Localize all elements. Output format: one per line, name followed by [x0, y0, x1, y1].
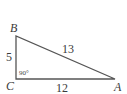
- right-angle-label: 90°: [19, 69, 29, 77]
- vertex-label-a: A: [113, 80, 122, 94]
- side-label-ab: 13: [62, 42, 74, 56]
- side-label-ca: 12: [56, 81, 68, 94]
- vertex-label-b: B: [10, 21, 18, 35]
- vertex-label-c: C: [6, 79, 15, 93]
- side-label-bc: 5: [6, 50, 12, 64]
- triangle-diagram: B C A 5 13 12 90°: [0, 0, 127, 94]
